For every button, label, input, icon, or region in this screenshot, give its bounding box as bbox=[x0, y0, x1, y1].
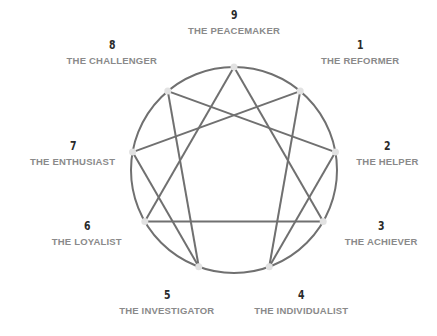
type-label-4: THE INDIVIDUALIST bbox=[254, 305, 348, 316]
type-number-6: 6 bbox=[83, 218, 92, 233]
type-label-3: THE ACHIEVER bbox=[345, 236, 418, 247]
type-label-7: THE ENTHUSIAST bbox=[30, 156, 115, 167]
type-number-7: 7 bbox=[68, 138, 77, 153]
type-node-4 bbox=[266, 263, 273, 270]
type-label-6: THE LOYALIST bbox=[52, 236, 122, 247]
enneagram-diagram bbox=[0, 0, 437, 336]
type-node-6 bbox=[141, 218, 148, 225]
type-number-3: 3 bbox=[377, 218, 386, 233]
type-node-2 bbox=[332, 149, 339, 156]
type-node-7 bbox=[129, 149, 136, 156]
type-number-2: 2 bbox=[383, 138, 392, 153]
type-label-5: THE INVESTIGATOR bbox=[119, 305, 214, 316]
type-number-5: 5 bbox=[162, 287, 171, 302]
type-number-1: 1 bbox=[356, 37, 365, 52]
type-node-5 bbox=[195, 263, 202, 270]
type-node-3 bbox=[320, 218, 327, 225]
type-node-1 bbox=[297, 88, 304, 95]
type-label-9: THE PEACEMAKER bbox=[188, 25, 280, 36]
type-node-9 bbox=[231, 64, 238, 71]
type-number-4: 4 bbox=[297, 287, 306, 302]
type-number-9: 9 bbox=[230, 7, 239, 22]
type-label-2: THE HELPER bbox=[356, 156, 418, 167]
enneagram-circle bbox=[131, 67, 337, 273]
type-label-8: THE CHALLENGER bbox=[67, 55, 157, 66]
type-label-1: THE REFORMER bbox=[321, 55, 399, 66]
type-number-8: 8 bbox=[108, 37, 117, 52]
type-node-8 bbox=[164, 88, 171, 95]
